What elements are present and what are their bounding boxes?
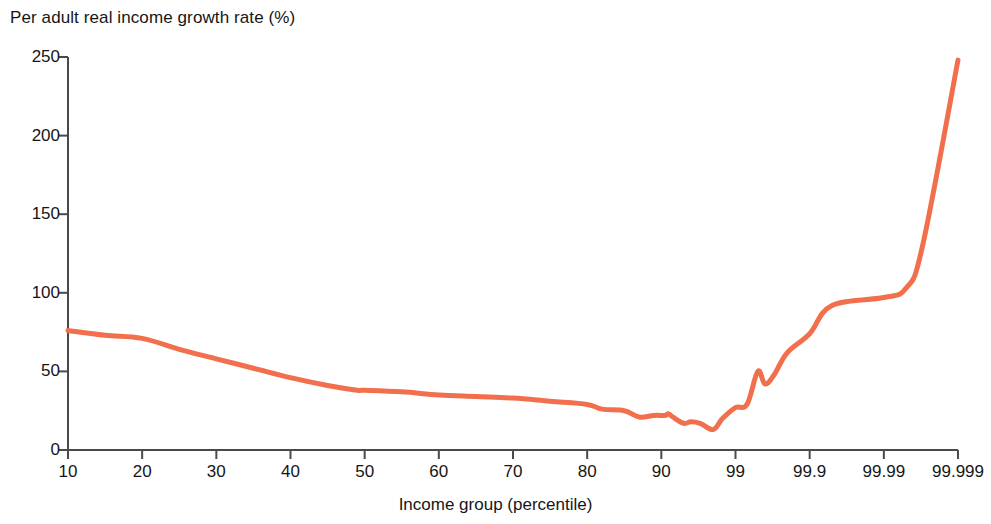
x-axis-tick-label: 99.99 <box>863 463 906 480</box>
y-axis-tick-label: 250 <box>8 48 60 65</box>
x-axis-tick-label: 99 <box>726 463 745 480</box>
x-axis-tick-marks <box>68 450 958 459</box>
x-axis-tick-label: 70 <box>504 463 523 480</box>
x-axis-tick-label: 80 <box>578 463 597 480</box>
y-axis-tick-marks <box>59 57 68 450</box>
x-axis-tick-label: 99.9 <box>793 463 826 480</box>
x-axis-tick-label: 90 <box>652 463 671 480</box>
x-axis-tick-label: 99.999 <box>932 463 984 480</box>
chart-plot-area <box>0 0 991 524</box>
y-axis-tick-label: 100 <box>8 284 60 301</box>
chart-container: Per adult real income growth rate (%) 25… <box>0 0 991 524</box>
x-axis-tick-label: 40 <box>281 463 300 480</box>
x-axis-tick-label: 30 <box>207 463 226 480</box>
x-axis-tick-label: 50 <box>355 463 374 480</box>
y-axis-tick-label: 50 <box>8 362 60 379</box>
y-axis-tick-label: 200 <box>8 127 60 144</box>
x-axis-tick-label: 20 <box>133 463 152 480</box>
series-line-0 <box>68 60 958 430</box>
y-axis-tick-label: 150 <box>8 205 60 222</box>
x-axis-title: Income group (percentile) <box>0 495 991 515</box>
data-series-group <box>68 60 958 430</box>
y-axis-tick-label: 0 <box>8 441 60 458</box>
x-axis-tick-label: 10 <box>59 463 78 480</box>
x-axis-tick-label: 60 <box>429 463 448 480</box>
